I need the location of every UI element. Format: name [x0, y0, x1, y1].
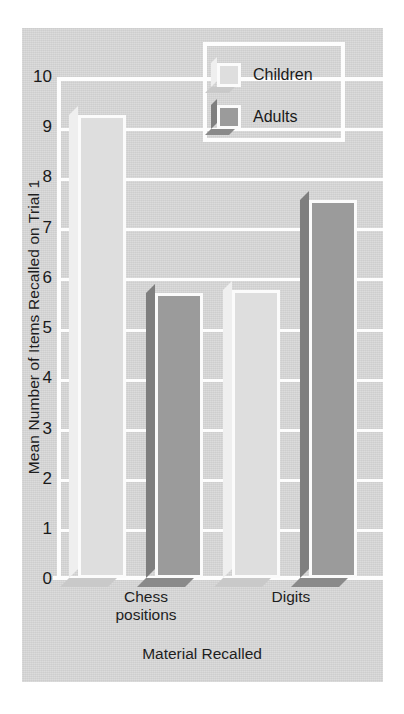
bar-front-face — [232, 290, 280, 578]
y-tick-label-0: 0 — [6, 570, 52, 587]
y-tick-label-4: 4 — [6, 369, 52, 386]
swatch-shadow — [205, 129, 235, 135]
x-tick-digits-line1: Digits — [236, 588, 346, 606]
bar-children-chess[interactable] — [78, 115, 126, 578]
bar-front-face — [309, 200, 357, 578]
x-axis-title: Material Recalled — [0, 645, 404, 663]
children-swatch-icon — [217, 63, 241, 87]
bar-chart-figure: Mean Number of Items Recalled on Trial 1… — [0, 0, 404, 714]
y-tick-label-3: 3 — [6, 420, 52, 437]
y-tick-label-5: 5 — [6, 319, 52, 336]
x-tick-chess-line2: positions — [86, 606, 206, 624]
bar-front-face — [78, 115, 126, 578]
y-tick-label-9: 9 — [6, 118, 52, 135]
x-tick-chess-line1: Chess — [86, 588, 206, 606]
swatch-front-face — [217, 105, 241, 129]
bar-shadow — [214, 578, 271, 587]
chart-legend: Children Adults — [203, 42, 345, 142]
bar-front-face — [155, 293, 203, 578]
swatch-front-face — [217, 63, 241, 87]
bar-side-face — [300, 191, 309, 578]
bar-children-digits[interactable] — [232, 290, 280, 578]
y-tick-label-1: 1 — [6, 520, 52, 537]
swatch-shadow — [205, 87, 235, 93]
x-tick-label-digits: Digits — [236, 588, 346, 606]
bar-side-face — [146, 284, 155, 578]
legend-label-adults: Adults — [253, 108, 297, 126]
y-tick-label-7: 7 — [6, 219, 52, 236]
bar-shadow — [291, 578, 348, 587]
legend-item-adults[interactable]: Adults — [217, 100, 297, 134]
legend-item-children[interactable]: Children — [217, 58, 313, 92]
bar-side-face — [223, 281, 232, 578]
bar-shadow — [60, 578, 117, 587]
y-tick-label-6: 6 — [6, 269, 52, 286]
bar-adults-chess[interactable] — [155, 293, 203, 578]
y-tick-label-10: 10 — [6, 68, 52, 85]
y-tick-label-8: 8 — [6, 168, 52, 185]
y-tick-label-2: 2 — [6, 470, 52, 487]
bar-shadow — [137, 578, 194, 587]
x-tick-label-chess-positions: Chess positions — [86, 588, 206, 624]
legend-label-children: Children — [253, 66, 313, 84]
adults-swatch-icon — [217, 105, 241, 129]
bar-side-face — [69, 106, 78, 578]
bar-adults-digits[interactable] — [309, 200, 357, 578]
